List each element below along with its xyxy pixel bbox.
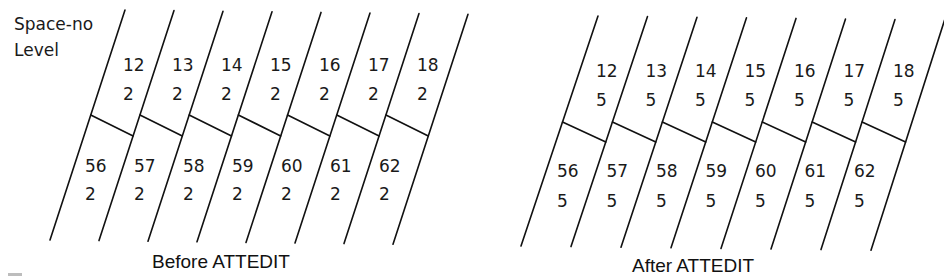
level-value: 2 xyxy=(330,184,341,204)
space-number: 15 xyxy=(745,61,767,81)
row-divider-line xyxy=(386,115,428,136)
space-number: 16 xyxy=(319,55,341,75)
before-caption: Before ATTEDIT xyxy=(152,251,290,272)
level-value: 2 xyxy=(281,184,292,204)
level-value: 2 xyxy=(232,184,243,204)
space-number: 56 xyxy=(85,156,107,176)
row-divider-line xyxy=(612,122,655,142)
space-number: 60 xyxy=(755,161,777,181)
space-number: 61 xyxy=(805,161,827,181)
stall-divider-line xyxy=(246,12,321,242)
after-caption: After ATTEDIT xyxy=(632,255,755,276)
level-value: 5 xyxy=(656,191,667,211)
stall-divider-line xyxy=(771,19,846,249)
level-value: 2 xyxy=(270,84,281,104)
level-value: 5 xyxy=(706,191,717,211)
space-number: 14 xyxy=(695,61,717,81)
space-number: 58 xyxy=(183,156,205,176)
row-divider-line xyxy=(337,115,379,136)
level-value: 2 xyxy=(319,84,330,104)
level-value: 2 xyxy=(183,184,194,204)
space-number: 59 xyxy=(232,156,254,176)
level-value: 2 xyxy=(134,184,145,204)
space-number: 17 xyxy=(368,55,390,75)
level-value: 2 xyxy=(379,184,390,204)
space-number: 14 xyxy=(221,55,243,75)
level-label: Level xyxy=(14,40,59,60)
level-value: 2 xyxy=(368,84,379,104)
level-value: 2 xyxy=(172,84,183,104)
stall-divider-line xyxy=(344,14,419,244)
space-number: 18 xyxy=(893,61,915,81)
stall-divider-line xyxy=(821,20,895,250)
space-number: 13 xyxy=(172,55,194,75)
row-divider-line xyxy=(662,122,705,142)
level-value: 2 xyxy=(417,84,428,104)
row-divider-line xyxy=(563,122,606,142)
parking-layout-diagram: Space-no Level 1221321421521621721825625… xyxy=(0,0,944,276)
stall-divider-line xyxy=(295,13,370,243)
space-number: 59 xyxy=(706,161,728,181)
space-number: 16 xyxy=(794,61,816,81)
level-value: 5 xyxy=(646,90,657,110)
level-value: 5 xyxy=(607,191,618,211)
stall-divider-line xyxy=(871,20,944,250)
row-divider-line xyxy=(712,122,755,142)
level-value: 5 xyxy=(755,191,766,211)
space-number: 56 xyxy=(557,161,579,181)
space-number: 57 xyxy=(607,161,629,181)
space-number: 13 xyxy=(646,61,668,81)
before-attedit-diagram: 1221321421521621721825625725825926026126… xyxy=(50,10,468,244)
level-value: 5 xyxy=(893,90,904,110)
level-value: 5 xyxy=(557,191,568,211)
level-value: 5 xyxy=(596,90,607,110)
row-divider-line xyxy=(762,122,805,142)
space-number: 57 xyxy=(134,156,156,176)
level-value: 2 xyxy=(123,84,134,104)
space-number: 15 xyxy=(270,55,292,75)
row-divider-line xyxy=(288,115,330,136)
space-number: 12 xyxy=(123,55,145,75)
row-divider-line xyxy=(862,122,906,142)
level-value: 5 xyxy=(854,191,865,211)
space-number: 62 xyxy=(854,161,876,181)
stall-divider-line xyxy=(393,14,468,244)
level-value: 2 xyxy=(85,184,96,204)
row-divider-line xyxy=(238,115,280,136)
space-number: 62 xyxy=(379,156,401,176)
row-divider-line xyxy=(140,115,182,136)
row-divider-line xyxy=(189,115,231,136)
level-value: 5 xyxy=(805,191,816,211)
level-value: 5 xyxy=(695,90,706,110)
stall-divider-line xyxy=(721,18,796,248)
space-number: 12 xyxy=(596,61,618,81)
after-attedit-diagram: 1251351451551651751855655755855956056156… xyxy=(521,16,944,250)
row-divider-line xyxy=(91,115,133,136)
level-value: 2 xyxy=(221,84,232,104)
stall-divider-line xyxy=(50,10,125,240)
row-divider-line xyxy=(812,122,855,142)
level-value: 5 xyxy=(844,90,855,110)
level-value: 5 xyxy=(745,90,756,110)
space-number: 17 xyxy=(844,61,866,81)
level-value: 5 xyxy=(794,90,805,110)
space-number: 18 xyxy=(417,55,439,75)
stall-divider-line xyxy=(521,16,598,246)
space-number: 61 xyxy=(330,156,352,176)
space-number: 58 xyxy=(656,161,678,181)
space-no-label: Space-no xyxy=(14,14,93,34)
space-number: 60 xyxy=(281,156,303,176)
